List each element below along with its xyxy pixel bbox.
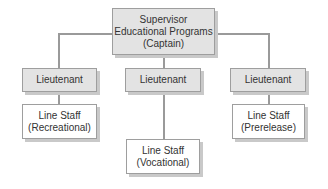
connector-right-horizontal bbox=[215, 33, 269, 35]
supervisor-title: Supervisor bbox=[140, 14, 188, 26]
line-staff-label: Line Staff bbox=[142, 145, 184, 157]
connector-center-vertical bbox=[163, 55, 165, 68]
lieutenant-label: Lieutenant bbox=[245, 74, 292, 86]
lieutenant-box-center: Lieutenant bbox=[125, 68, 201, 92]
connector-right-lt-staff bbox=[268, 92, 270, 104]
line-staff-area: (Vocational) bbox=[137, 157, 190, 169]
supervisor-subtitle: Educational Programs bbox=[114, 26, 212, 38]
line-staff-area: (Prerelease) bbox=[241, 122, 296, 134]
lieutenant-box-right: Lieutenant bbox=[230, 68, 306, 92]
line-staff-label: Line Staff bbox=[38, 110, 80, 122]
connector-center-lt-staff bbox=[163, 92, 165, 139]
lieutenant-label: Lieutenant bbox=[140, 74, 187, 86]
connector-left-vertical bbox=[58, 33, 60, 68]
line-staff-prerelease-box: Line Staff (Prerelease) bbox=[232, 104, 305, 139]
line-staff-area: (Recreational) bbox=[28, 122, 91, 134]
supervisor-rank: (Captain) bbox=[143, 38, 184, 50]
lieutenant-box-left: Lieutenant bbox=[22, 68, 97, 92]
line-staff-vocational-box: Line Staff (Vocational) bbox=[126, 139, 200, 174]
line-staff-label: Line Staff bbox=[247, 110, 289, 122]
supervisor-box: Supervisor Educational Programs (Captain… bbox=[112, 8, 215, 55]
connector-left-horizontal bbox=[58, 33, 112, 35]
connector-left-lt-staff bbox=[58, 92, 60, 104]
line-staff-recreational-box: Line Staff (Recreational) bbox=[22, 104, 97, 139]
lieutenant-label: Lieutenant bbox=[36, 74, 83, 86]
connector-right-vertical bbox=[268, 33, 270, 68]
